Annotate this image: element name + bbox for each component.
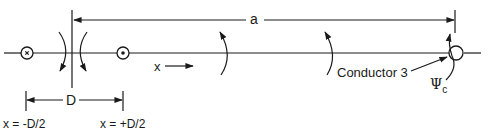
two-wire-flux-diagram: a x Conductor 3 Ψc D x = -D/2 x = +D/2 xyxy=(0,0,502,137)
dimension-a xyxy=(74,10,455,33)
label-conductor-3: Conductor 3 xyxy=(337,66,408,79)
flux-arc-left-arrow-icon xyxy=(59,32,66,71)
psi-subscript: c xyxy=(442,84,447,95)
conductor-3-leader-arrow-icon xyxy=(411,57,447,71)
psi-symbol: Ψ xyxy=(430,76,442,92)
label-D: D xyxy=(66,93,76,107)
flux-arc-right-arrow-icon xyxy=(80,32,87,71)
label-x-axis: x xyxy=(154,60,161,73)
label-a: a xyxy=(250,12,258,26)
label-left-position: x = -D/2 xyxy=(3,118,45,130)
label-right-position: x = +D/2 xyxy=(100,118,145,130)
left-conductor-cross-icon xyxy=(21,47,33,59)
label-psi-c: Ψc xyxy=(430,77,447,95)
right-conductor-dot-icon xyxy=(117,47,129,59)
